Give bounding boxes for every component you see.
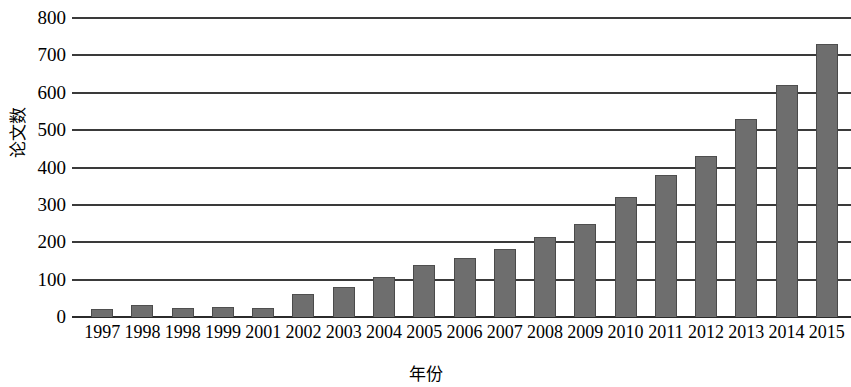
x-axis-tick-label: 1998 [160, 321, 206, 343]
x-axis-tick-label: 2010 [603, 321, 649, 343]
bar [735, 119, 757, 317]
plot-area [72, 0, 851, 330]
bar [172, 308, 194, 317]
bar [91, 309, 113, 317]
bar [574, 224, 596, 317]
x-axis-tick-label: 1998 [119, 321, 165, 343]
bar [615, 197, 637, 317]
x-axis-tick-label: 2004 [361, 321, 407, 343]
y-axis-tick-label: 600 [2, 83, 66, 102]
x-axis-tick-label: 2011 [643, 321, 689, 343]
x-axis-tick-label: 2006 [442, 321, 488, 343]
x-axis-tick-label: 2005 [401, 321, 447, 343]
x-axis-tick-label: 2014 [764, 321, 810, 343]
bar [695, 156, 717, 317]
bar [494, 249, 516, 317]
bars-layer [72, 0, 851, 330]
y-axis-tick-label: 500 [2, 120, 66, 139]
x-axis-tick-label: 2013 [723, 321, 769, 343]
x-axis-tick-label: 2009 [562, 321, 608, 343]
bar [252, 308, 274, 317]
bar [333, 287, 355, 317]
y-axis-tick-label: 300 [2, 195, 66, 214]
x-axis-tick-label: 2008 [522, 321, 568, 343]
bar [131, 305, 153, 317]
bar [292, 294, 314, 317]
x-axis-tick-label: 2001 [240, 321, 286, 343]
x-axis-tick-label: 2007 [482, 321, 528, 343]
x-axis-tick-label: 1997 [79, 321, 125, 343]
y-axis-tick-label: 200 [2, 232, 66, 251]
bar-chart: 论文数 0100200300400500600700800 1997199819… [0, 0, 851, 387]
bar [776, 85, 798, 317]
bar [413, 265, 435, 317]
x-axis-tick-label: 2015 [804, 321, 850, 343]
x-axis-title: 年份 [0, 360, 851, 385]
x-axis-tick-labels: 1997199819981999200120022003200420052006… [72, 321, 851, 351]
x-axis-tick-label: 2003 [321, 321, 367, 343]
bar [816, 44, 838, 317]
bar [534, 237, 556, 317]
bar [454, 258, 476, 317]
x-axis-tick-label: 1999 [200, 321, 246, 343]
bar [212, 307, 234, 317]
y-axis-tick-label: 800 [2, 8, 66, 27]
y-axis-tick-label: 700 [2, 45, 66, 64]
bar [373, 277, 395, 317]
x-axis-tick-label: 2002 [280, 321, 326, 343]
y-axis-tick-label: 400 [2, 158, 66, 177]
y-axis-tick-label: 0 [2, 307, 66, 326]
x-axis-tick-label: 2012 [683, 321, 729, 343]
y-axis-tick-labels: 0100200300400500600700800 [0, 0, 66, 330]
y-axis-tick-label: 100 [2, 270, 66, 289]
bar [655, 175, 677, 317]
